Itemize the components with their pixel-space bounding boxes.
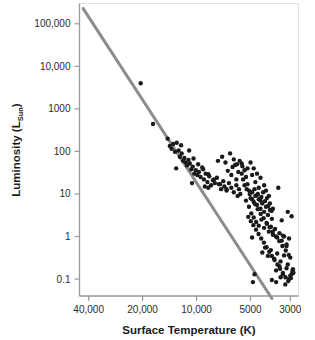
y-tick-label-3: 100 xyxy=(54,146,71,157)
star-point xyxy=(180,151,184,155)
star-point xyxy=(250,235,254,239)
star-point xyxy=(213,181,217,185)
star-point xyxy=(278,259,282,263)
star-point xyxy=(174,166,178,170)
star-point xyxy=(271,229,275,233)
star-point xyxy=(224,187,228,191)
y-axis-ticks: 100,00010,00010001001010.1 xyxy=(34,18,79,284)
star-point xyxy=(229,186,233,190)
star-point xyxy=(266,213,270,217)
star-point xyxy=(286,210,290,214)
x-tick-label-1: 20,000 xyxy=(127,304,158,315)
star-point xyxy=(281,233,285,237)
star-point xyxy=(232,157,236,161)
star-point xyxy=(206,172,210,176)
star-point xyxy=(253,180,257,184)
star-point xyxy=(284,248,288,252)
star-point xyxy=(275,251,279,255)
y-axis-title-main: Luminosity (L xyxy=(10,121,22,196)
star-point xyxy=(274,268,278,272)
star-point xyxy=(229,173,233,177)
star-point xyxy=(175,141,179,145)
y-tick-label-5: 1 xyxy=(65,231,71,242)
star-point xyxy=(280,218,284,222)
star-point xyxy=(205,180,209,184)
star-point xyxy=(258,176,262,180)
star-point xyxy=(228,151,232,155)
y-axis-title: Luminosity (LSun) xyxy=(10,103,25,197)
star-point xyxy=(252,215,256,219)
star-point xyxy=(262,226,266,230)
y-axis-title-subscript: Sun xyxy=(16,107,25,122)
star-point xyxy=(165,136,169,140)
star-point xyxy=(151,122,155,126)
star-point xyxy=(269,209,273,213)
y-tick-label-4: 10 xyxy=(59,188,71,199)
y-tick-label-6: 0.1 xyxy=(57,274,71,285)
star-point xyxy=(191,164,195,168)
star-point xyxy=(264,245,268,249)
star-point xyxy=(274,280,278,284)
star-point xyxy=(212,177,216,181)
star-point xyxy=(240,164,244,168)
hr-diagram-figure: 100,00010,00010001001010.1 40,00020,0001… xyxy=(0,0,315,340)
star-point xyxy=(256,192,260,196)
star-point xyxy=(277,239,281,243)
star-point xyxy=(276,186,280,190)
star-point xyxy=(196,162,200,166)
star-point xyxy=(262,183,266,187)
x-tick-label-0: 40,000 xyxy=(73,304,104,315)
star-point xyxy=(267,229,271,233)
star-point xyxy=(249,211,253,215)
star-point xyxy=(234,183,238,187)
star-point xyxy=(264,188,268,192)
star-point xyxy=(182,156,186,160)
star-point xyxy=(267,194,271,198)
x-tick-label-2: 10,000 xyxy=(181,304,212,315)
star-point xyxy=(253,202,257,206)
star-point xyxy=(206,186,210,190)
star-point xyxy=(282,253,286,257)
star-point xyxy=(139,81,143,85)
star-point xyxy=(248,160,252,164)
star-point xyxy=(202,177,206,181)
scatter-plot-canvas: 100,00010,00010001001010.1 40,00020,0001… xyxy=(0,0,315,340)
star-point xyxy=(235,162,239,166)
star-point xyxy=(251,280,255,284)
star-point xyxy=(248,192,252,196)
y-tick-label-0: 100,000 xyxy=(34,18,71,29)
star-point xyxy=(283,282,287,286)
star-point xyxy=(270,278,274,282)
star-point xyxy=(236,170,240,174)
star-point xyxy=(250,173,254,177)
star-point xyxy=(255,171,259,175)
star-point xyxy=(280,244,284,248)
star-point xyxy=(267,249,271,253)
star-point xyxy=(258,212,262,216)
star-point xyxy=(270,254,274,258)
star-point xyxy=(190,181,194,185)
star-point xyxy=(232,190,236,194)
x-axis-ticks: 40,00020,00010,00050003000 xyxy=(73,296,301,315)
x-tick-label-4: 3000 xyxy=(279,304,302,315)
star-point xyxy=(179,143,183,147)
star-point xyxy=(278,267,282,271)
star-point xyxy=(289,214,293,218)
star-point xyxy=(221,179,225,183)
star-point xyxy=(191,156,195,160)
star-point xyxy=(254,227,258,231)
star-point xyxy=(261,216,265,220)
star-point xyxy=(252,272,256,276)
star-point xyxy=(249,219,253,223)
star-point xyxy=(252,166,256,170)
star-point xyxy=(284,266,288,270)
star-point xyxy=(278,275,282,279)
star-point xyxy=(245,166,249,170)
x-tick-label-3: 5000 xyxy=(239,304,262,315)
star-point xyxy=(218,182,222,186)
y-tick-label-1: 10,000 xyxy=(40,61,71,72)
star-point xyxy=(262,240,266,244)
star-point xyxy=(266,254,270,258)
star-point xyxy=(197,170,201,174)
star-point xyxy=(266,204,270,208)
